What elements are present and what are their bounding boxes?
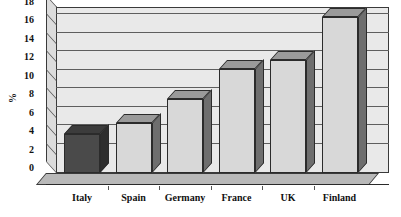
bar-front-face <box>167 99 203 173</box>
x-axis-tick-mark <box>262 186 263 190</box>
plot-floor-front-edge <box>46 184 389 185</box>
x-axis-tick-mark <box>314 186 315 190</box>
bar-top-face <box>270 51 314 60</box>
x-axis-tick-mark <box>159 186 160 190</box>
y-tick-label: 16 <box>12 15 34 24</box>
bar-front-face <box>322 17 358 173</box>
bar-side-face <box>255 59 264 173</box>
bar-uk <box>270 60 306 173</box>
x-axis-category-labels: ItalySpainGermanyFranceUKFinland <box>0 192 401 212</box>
bar-top-face <box>219 60 263 69</box>
bar-finland <box>322 17 358 173</box>
bar-chart: % 181614121086420 ItalySpainGermanyFranc… <box>0 0 401 217</box>
bar-top-face <box>322 8 366 17</box>
y-tick-label: 18 <box>12 0 34 6</box>
bar-top-face <box>116 114 160 123</box>
y-tick-label: 12 <box>12 52 34 61</box>
y-tick-label: 14 <box>12 34 34 43</box>
bar-side-face <box>358 7 367 173</box>
y-axis-tick-labels: 181614121086420 <box>10 0 34 217</box>
y-tick-label: 2 <box>12 145 34 154</box>
bar-side-face <box>203 89 212 173</box>
y-tick-label: 10 <box>12 71 34 80</box>
bar-germany <box>167 99 203 173</box>
bar-side-face <box>306 50 315 173</box>
bar-front-face <box>219 69 255 173</box>
bar-front-face <box>116 123 152 173</box>
y-tick-label: 6 <box>12 108 34 117</box>
x-axis-tick-mark <box>108 186 109 190</box>
bar-italy <box>64 134 100 173</box>
y-tick-label: 8 <box>12 89 34 98</box>
bar-front-face <box>64 134 100 173</box>
y-tick-label: 0 <box>12 163 34 172</box>
bar-side-face <box>152 113 161 173</box>
bar-front-face <box>270 60 306 173</box>
x-tick-label: Finland <box>302 192 378 204</box>
plot-area <box>46 7 389 185</box>
x-axis-tick-mark <box>211 186 212 190</box>
y-tick-label: 4 <box>12 126 34 135</box>
bar-france <box>219 69 255 173</box>
bar-spain <box>116 123 152 173</box>
